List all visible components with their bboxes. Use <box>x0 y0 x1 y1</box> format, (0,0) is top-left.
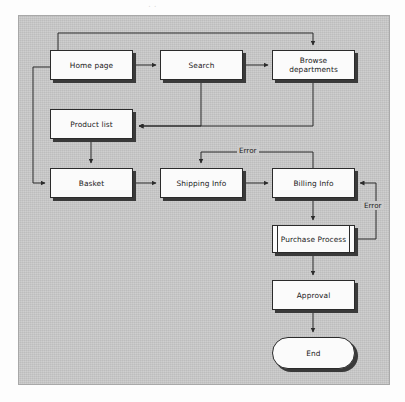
node-search[interactable]: Search <box>160 50 243 80</box>
node-label: Approval <box>295 291 333 300</box>
node-label: Home page <box>68 61 116 70</box>
edge-label-error-right: Error <box>362 201 384 210</box>
edge-purchase-to-billing-error <box>355 183 376 239</box>
node-label: Search <box>187 61 217 70</box>
node-shipping-info[interactable]: Shipping Info <box>160 168 243 198</box>
node-billing-info[interactable]: Billing Info <box>272 168 355 198</box>
edge-search-to-product <box>139 80 201 126</box>
node-label: Browse departments <box>273 56 354 74</box>
node-label: Billing Info <box>291 179 335 188</box>
node-approval[interactable]: Approval <box>272 280 355 310</box>
node-basket[interactable]: Basket <box>50 168 133 198</box>
node-product-list[interactable]: Product list <box>50 109 133 139</box>
edge-home-to-browse <box>58 33 313 50</box>
node-label: Basket <box>77 179 107 188</box>
edge-label-error-top: Error <box>237 146 259 155</box>
edge-label-text: Error <box>239 146 257 155</box>
node-purchase-process[interactable]: Purchase Process <box>272 225 355 253</box>
node-label: Shipping Info <box>175 179 229 188</box>
edge-home-to-basket <box>33 67 50 183</box>
edge-browse-to-product <box>139 80 313 126</box>
node-home-page[interactable]: Home page <box>50 50 133 80</box>
node-browse-departments[interactable]: Browse departments <box>272 50 355 80</box>
edge-label-text: Error <box>364 201 382 210</box>
node-label: Product list <box>68 120 114 129</box>
diagram-page: .. <box>0 0 405 402</box>
node-label: Purchase Process <box>279 235 349 244</box>
node-label: End <box>304 349 322 358</box>
node-end[interactable]: End <box>272 337 355 369</box>
